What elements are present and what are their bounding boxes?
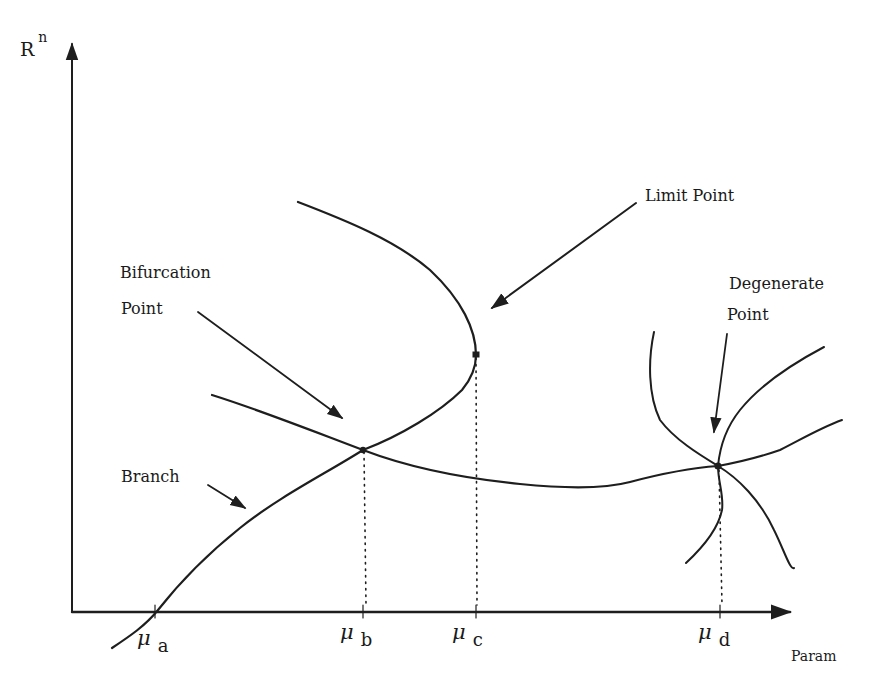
param-label-mu-a: μa xyxy=(137,626,168,650)
param-label-mu-d: μd xyxy=(698,620,730,644)
param-label-mu-c: μc xyxy=(452,620,483,644)
branch-curve-upper-fold xyxy=(298,202,476,355)
bifurcation-diagram: Rn Param μa μb μc μd Limit Point Bifurca… xyxy=(0,0,874,693)
label-degenerate-line-1: Degenerate xyxy=(729,276,824,292)
branch-curve-primary xyxy=(112,355,476,648)
label-degenerate-line-2: Point xyxy=(727,307,769,323)
param-label-mu-b: μb xyxy=(340,620,372,644)
label-limit-point: Limit Point xyxy=(645,188,734,204)
bifurcation-point-marker xyxy=(360,447,366,453)
arrow-bifurcation-point xyxy=(198,312,342,418)
y-axis-label-superscript: n xyxy=(38,29,47,45)
y-axis-label-base: R xyxy=(20,38,34,60)
x-axis-label: Param xyxy=(791,648,836,664)
limit-point-marker xyxy=(473,352,480,358)
y-axis-label: Rn xyxy=(20,38,47,60)
label-bifurcation-line-1: Bifurcation xyxy=(120,265,211,281)
diagram-graphics xyxy=(0,0,874,693)
label-branch: Branch xyxy=(121,469,180,485)
arrow-branch xyxy=(208,485,245,508)
arrow-limit-point xyxy=(492,203,636,308)
dotted-line-mu-b xyxy=(364,452,366,605)
arrow-degenerate-point xyxy=(714,334,727,432)
dotted-line-mu-c xyxy=(476,358,477,605)
degenerate-curve-3 xyxy=(718,420,842,466)
label-bifurcation-line-2: Point xyxy=(121,301,163,317)
branch-curve-secondary xyxy=(212,395,718,488)
degenerate-point-marker xyxy=(714,462,721,469)
degenerate-curve-2 xyxy=(686,347,824,563)
